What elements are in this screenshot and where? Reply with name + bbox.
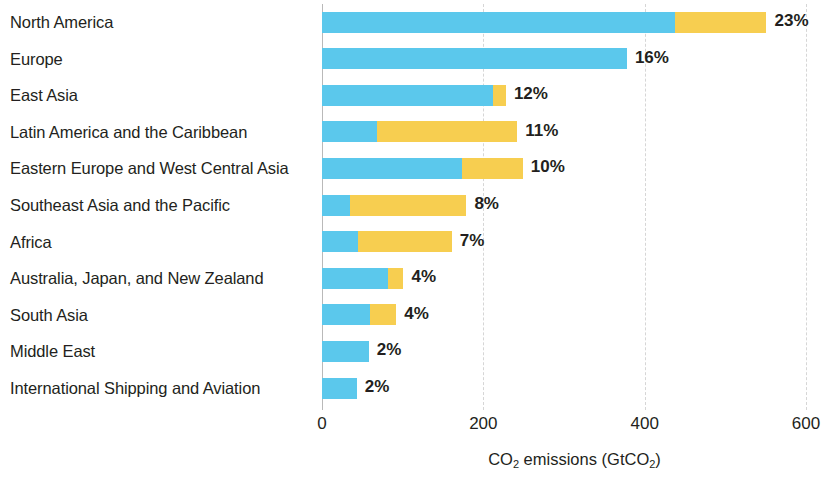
category-label: Australia, Japan, and New Zealand	[10, 260, 264, 297]
x-tick-label-600: 600	[792, 414, 820, 434]
bar-segment-2	[675, 12, 767, 33]
bar-segment-2	[388, 268, 403, 289]
category-label: Middle East	[10, 333, 95, 370]
bar-value-label: 4%	[411, 266, 436, 288]
bar-segment-1	[322, 48, 627, 69]
stacked-bar	[322, 48, 627, 69]
stacked-bar	[322, 85, 506, 106]
bar-value-label: 23%	[774, 10, 808, 32]
bar-value-label: 2%	[365, 376, 390, 398]
stacked-bar	[322, 121, 517, 142]
category-label: Latin America and the Caribbean	[10, 114, 247, 151]
category-label: North America	[10, 4, 113, 41]
bar-segment-1	[322, 231, 358, 252]
bar-segment-1	[322, 121, 377, 142]
bar-segment-1	[322, 85, 493, 106]
x-axis-title: CO2 emissions (GtCO2)	[322, 450, 827, 469]
stacked-bar	[322, 158, 523, 179]
bar-row: Australia, Japan, and New Zealand4%	[0, 260, 827, 297]
bar-segment-1	[322, 195, 350, 216]
bar-row: Europe16%	[0, 41, 827, 78]
bar-segment-2	[358, 231, 452, 252]
bar-value-label: 16%	[635, 47, 669, 69]
bar-segment-1	[322, 12, 675, 33]
x-tick-label-400: 400	[630, 414, 658, 434]
bar-segment-2	[377, 121, 517, 142]
category-label: Southeast Asia and the Pacific	[10, 187, 230, 224]
bar-segment-1	[322, 158, 462, 179]
category-label: South Asia	[10, 297, 88, 334]
bar-row: International Shipping and Aviation2%	[0, 370, 827, 407]
bar-rows-group: North America23%Europe16%East Asia12%Lat…	[0, 0, 827, 410]
x-axis-title-mid: emissions (GtCO	[519, 450, 649, 468]
bar-row: Eastern Europe and West Central Asia10%	[0, 150, 827, 187]
x-axis-title-post: )	[655, 450, 661, 468]
bar-value-label: 11%	[525, 120, 558, 142]
bar-row: Middle East2%	[0, 333, 827, 370]
stacked-bar	[322, 195, 466, 216]
co2-emissions-bar-chart: North America23%Europe16%East Asia12%Lat…	[0, 0, 827, 481]
bar-segment-2	[493, 85, 506, 106]
bar-segment-1	[322, 341, 369, 362]
bar-value-label: 2%	[377, 339, 402, 361]
stacked-bar	[322, 378, 357, 399]
bar-value-label: 10%	[531, 156, 565, 178]
bar-segment-2	[350, 195, 466, 216]
stacked-bar	[322, 304, 396, 325]
bar-value-label: 8%	[474, 193, 499, 215]
bar-row: North America23%	[0, 4, 827, 41]
x-tick-label-200: 200	[469, 414, 497, 434]
bar-segment-1	[322, 378, 357, 399]
x-axis-title-pre: CO	[488, 450, 513, 468]
bar-row: South Asia4%	[0, 297, 827, 334]
stacked-bar	[322, 12, 766, 33]
category-label: East Asia	[10, 77, 78, 114]
bar-segment-2	[462, 158, 523, 179]
stacked-bar	[322, 231, 452, 252]
category-label: International Shipping and Aviation	[10, 370, 260, 407]
x-tick-label-0: 0	[317, 414, 326, 434]
bar-row: Africa7%	[0, 224, 827, 261]
x-axis-title-sub2: 2	[649, 458, 655, 470]
bar-value-label: 7%	[460, 230, 485, 252]
stacked-bar	[322, 268, 403, 289]
bar-value-label: 4%	[404, 303, 429, 325]
stacked-bar	[322, 341, 369, 362]
x-axis-title-sub1: 2	[513, 458, 519, 470]
bar-value-label: 12%	[514, 83, 548, 105]
bar-row: Southeast Asia and the Pacific8%	[0, 187, 827, 224]
bar-row: East Asia12%	[0, 77, 827, 114]
bar-row: Latin America and the Caribbean11%	[0, 114, 827, 151]
category-label: Africa	[10, 224, 52, 261]
bar-segment-1	[322, 304, 370, 325]
bar-segment-1	[322, 268, 388, 289]
category-label: Eastern Europe and West Central Asia	[10, 150, 289, 187]
bar-segment-2	[370, 304, 397, 325]
category-label: Europe	[10, 41, 63, 78]
